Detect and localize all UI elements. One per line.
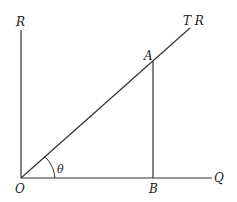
label-Q: Q	[214, 171, 224, 185]
label-B: B	[148, 182, 158, 196]
label-A: A	[143, 49, 153, 63]
label-TR: T R	[183, 14, 204, 28]
label-R: R	[15, 15, 25, 29]
geometry-diagram: R T R A θ O B Q	[0, 0, 237, 202]
angle-theta-arc	[45, 157, 55, 178]
line-TR	[21, 28, 190, 178]
diagram-svg: R T R A θ O B Q	[0, 0, 237, 202]
label-O: O	[15, 182, 25, 196]
label-theta: θ	[57, 163, 64, 176]
